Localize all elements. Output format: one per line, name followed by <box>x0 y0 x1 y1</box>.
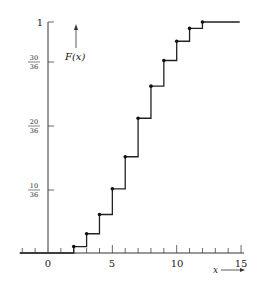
y-tick-label-20-den: 36 <box>30 127 38 135</box>
y-tick-label-10-den: 36 <box>30 191 38 199</box>
y-tick-label-30-num: 30 <box>30 54 38 62</box>
y-tick-label-20-num: 20 <box>30 118 38 126</box>
y-tick-label-10-num: 10 <box>30 182 38 190</box>
cdf-chart: 0 5 10 15 x 1 30 36 20 36 10 36 F(x) <box>0 0 257 286</box>
x-tick-label-10: 10 <box>171 258 184 269</box>
x-ticks <box>22 245 241 253</box>
step-series <box>20 22 240 253</box>
x-tick-label-0: 0 <box>45 258 51 269</box>
y-ticks <box>48 22 54 190</box>
y-axis-label: F(x) <box>64 51 85 62</box>
y-tick-label-1: 1 <box>37 17 43 28</box>
x-tick-label-5: 5 <box>109 258 115 269</box>
y-tick-label-30-den: 36 <box>30 63 38 71</box>
y-arrowhead-icon <box>74 24 78 30</box>
x-tick-label-15: 15 <box>235 258 248 269</box>
x-axis-label: x <box>213 265 218 275</box>
